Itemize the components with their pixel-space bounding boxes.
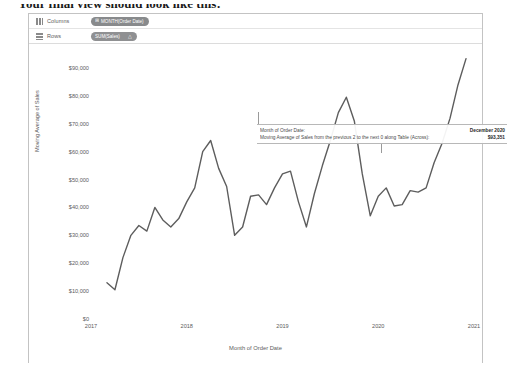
annotation-row: Moving Average of Sales from the previou… (257, 134, 507, 141)
document-heading: Your final view should look like this: (18, 0, 488, 8)
rows-shelf[interactable]: Rows SUM(Sales) △ (29, 29, 482, 44)
annotation-value: December 2020 (466, 127, 505, 134)
x-axis-tick-label: 2021 (468, 323, 480, 329)
y-axis-tick-label: $20,000 (69, 260, 89, 266)
annotation-row: Month of Order Date: December 2020 (257, 127, 507, 134)
x-axis-title: Month of Order Date (29, 345, 482, 351)
x-axis-tick-label: 2018 (181, 323, 193, 329)
delta-table-calc-icon: △ (128, 33, 132, 39)
rows-icon (36, 33, 43, 40)
y-axis-tick-label: $50,000 (69, 177, 89, 183)
x-axis-tick-label: 2020 (372, 323, 384, 329)
chart-canvas[interactable]: Moving Average of Sales $0$10,000$20,000… (29, 44, 482, 363)
columns-shelf-label: Columns (47, 18, 91, 24)
annotation-label: Month of Order Date: (260, 127, 466, 134)
y-axis-tick-label: $90,000 (69, 65, 89, 71)
pill-month-order-date-label: MONTH(Order Date) (101, 19, 144, 24)
y-axis-tick-label: $60,000 (69, 149, 89, 155)
y-axis-tick-label: $10,000 (69, 288, 89, 294)
pill-sum-sales[interactable]: SUM(Sales) △ (91, 32, 137, 41)
columns-icon (36, 18, 43, 25)
y-axis-tick-label: $70,000 (69, 121, 89, 127)
series-moving-average[interactable] (107, 59, 466, 290)
x-axis-tick-label: 2017 (85, 323, 97, 329)
columns-shelf[interactable]: Columns ⊞ MONTH(Order Date) (29, 14, 482, 29)
rows-shelf-label: Rows (47, 33, 91, 39)
pill-month-order-date[interactable]: ⊞ MONTH(Order Date) (91, 17, 149, 26)
annotation-value: $93,351 (484, 134, 505, 141)
y-axis-tick-label: $80,000 (69, 93, 89, 99)
y-axis-tick-label: $0 (83, 316, 89, 322)
plot-area[interactable] (91, 54, 474, 319)
tableau-worksheet: Columns ⊞ MONTH(Order Date) Rows SUM(Sal… (28, 13, 483, 363)
y-axis-ticks: $0$10,000$20,000$30,000$40,000$50,000$60… (43, 44, 91, 363)
pill-sum-sales-label: SUM(Sales) (95, 34, 120, 39)
line-series-svg (91, 54, 474, 319)
y-axis-title: Moving Average of Sales (34, 90, 40, 152)
calendar-plus-icon: ⊞ (95, 19, 99, 24)
x-axis-ticks: 20172018201920202021 (91, 323, 474, 333)
tooltip-annotation[interactable]: Month of Order Date: December 2020 Movin… (257, 124, 507, 144)
annotation-leader-top (258, 112, 259, 124)
annotation-label: Moving Average of Sales from the previou… (260, 134, 484, 141)
x-axis-tick-label: 2019 (276, 323, 288, 329)
annotation-leader-bottom (381, 144, 382, 153)
y-axis-tick-label: $40,000 (69, 204, 89, 210)
y-axis-tick-label: $30,000 (69, 232, 89, 238)
